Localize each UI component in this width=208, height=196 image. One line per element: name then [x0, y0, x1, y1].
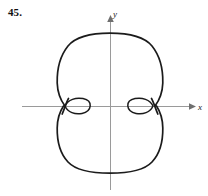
arrow-right-icon	[189, 103, 196, 110]
left-inner-loop	[65, 98, 90, 114]
x-axis-label: x	[197, 102, 202, 112]
polar-curve-figure: y x	[0, 0, 208, 196]
figure-page: 45. y x	[0, 0, 208, 196]
right-inner-loop	[128, 98, 153, 114]
y-axis-label: y	[112, 9, 117, 19]
